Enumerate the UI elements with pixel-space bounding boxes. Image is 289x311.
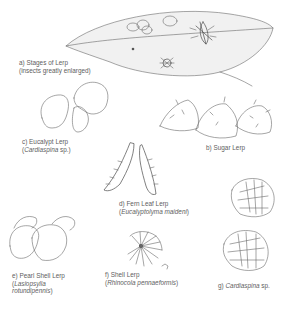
label-a: a) Stages of Lerp (insects greatly enlar… [19,59,91,74]
shell-lerp-illustration [128,232,168,270]
cardiaspina-lerp-illustration [223,178,274,270]
lerp-illustration: a) Stages of Lerp (insects greatly enlar… [0,0,289,311]
label-e-genus: (Lasiopsylla [12,280,65,288]
label-f-title: f) Shell Lerp [105,271,178,279]
label-c-title: c) Eucalypt Lerp [22,138,71,146]
label-e: e) Pearl Shell Lerp (Lasiopsylla rotundi… [12,272,65,295]
lerp-drawings [0,0,289,311]
sugar-lerp-illustration [160,97,272,138]
label-f-species: (Rhinocola pennaeformis) [105,279,178,287]
label-e-species: rotundipennis) [12,287,65,295]
label-f: f) Shell Lerp (Rhinocola pennaeformis) [105,271,178,286]
label-c-species: (Cardiaspina sp.) [22,146,71,154]
label-b-title: b) Sugar Lerp [206,144,245,152]
label-d-title: d) Fern Leaf Lerp [119,200,189,208]
label-d: d) Fern Leaf Lerp (Eucalyptolyma maideni… [119,200,189,215]
pearl-shell-lerp-illustration [10,216,75,260]
label-e-title: e) Pearl Shell Lerp [12,272,65,280]
leaf-illustration [66,11,273,86]
label-g: g) Cardiaspina sp. [218,282,270,290]
label-b: b) Sugar Lerp [206,144,245,152]
eucalypt-lerp-illustration [41,82,108,132]
label-a-subtitle: (insects greatly enlarged) [19,67,91,75]
label-d-species: (Eucalyptolyma maideni) [119,208,189,216]
label-a-title: a) Stages of Lerp [19,59,91,67]
label-c: c) Eucalypt Lerp (Cardiaspina sp.) [22,138,71,153]
fern-leaf-lerp-illustration [104,143,158,195]
